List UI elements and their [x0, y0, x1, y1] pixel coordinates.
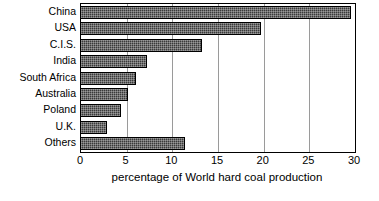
bar-poland [81, 104, 121, 117]
category-label: South Africa [0, 71, 76, 84]
category-label: Others [0, 136, 76, 149]
bar-row [81, 104, 355, 117]
bar-row [81, 22, 355, 35]
bar-c-i-s [81, 39, 202, 52]
bar-row [81, 72, 355, 85]
category-label: China [0, 5, 76, 18]
x-tick-label-20: 20 [257, 153, 269, 167]
plot-area [80, 3, 356, 153]
x-tick-label-5: 5 [123, 153, 129, 167]
bar-row [81, 6, 355, 19]
bar-row [81, 137, 355, 150]
bar-south-africa [81, 72, 136, 85]
x-axis-title: percentage of World hard coal production [80, 170, 354, 184]
category-label: C.I.S. [0, 38, 76, 51]
bar-u-k [81, 121, 107, 134]
bar-usa [81, 22, 261, 35]
category-label: U.K. [0, 120, 76, 133]
category-label: Poland [0, 103, 76, 116]
x-tick-label-15: 15 [211, 153, 223, 167]
category-label: India [0, 54, 76, 67]
x-tick-label-10: 10 [165, 153, 177, 167]
category-label: Australia [0, 87, 76, 100]
bar-row [81, 121, 355, 134]
bar-chart: ChinaUSAC.I.S.IndiaSouth AfricaAustralia… [0, 0, 379, 201]
x-tick-label-25: 25 [302, 153, 314, 167]
category-axis-labels: ChinaUSAC.I.S.IndiaSouth AfricaAustralia… [0, 3, 76, 151]
bar-others [81, 137, 185, 150]
value-axis-ticks: 051015202530 [0, 153, 379, 167]
category-label: USA [0, 21, 76, 34]
bar-row [81, 88, 355, 101]
bar-australia [81, 88, 128, 101]
bar-row [81, 39, 355, 52]
bar-india [81, 55, 147, 68]
x-tick-label-0: 0 [77, 153, 83, 167]
bar-row [81, 55, 355, 68]
bars-layer [81, 4, 355, 152]
x-tick-label-30: 30 [348, 153, 360, 167]
bar-china [81, 6, 351, 19]
